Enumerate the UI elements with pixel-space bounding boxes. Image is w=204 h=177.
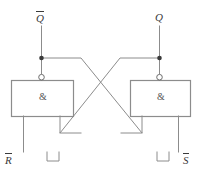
label-input-rbar-text: R xyxy=(5,153,12,166)
label-output-q: Q xyxy=(155,12,163,23)
gate-left-symbol-text: & xyxy=(39,91,47,102)
label-input-sbar-text: S xyxy=(183,153,189,166)
junction-dot-right xyxy=(157,56,162,61)
pulse-symbol-left xyxy=(47,152,59,161)
label-output-qbar: Q xyxy=(36,11,44,24)
label-input-rbar: R xyxy=(5,153,12,166)
label-input-sbar: S xyxy=(183,153,189,166)
inversion-bubble-right-icon xyxy=(157,74,163,80)
junction-dot-left xyxy=(39,56,44,61)
gate-right-symbol-text: & xyxy=(157,91,165,102)
pulse-symbol-right xyxy=(157,152,169,161)
gate-left-symbol: & xyxy=(39,92,47,102)
label-output-qbar-text: Q xyxy=(36,11,44,24)
gate-right-symbol: & xyxy=(157,92,165,102)
inversion-bubble-left-icon xyxy=(39,74,45,80)
label-output-q-text: Q xyxy=(155,11,163,23)
schematic-canvas: Q Q R S & & xyxy=(0,0,204,177)
logic-circuit-schematic xyxy=(0,0,204,177)
